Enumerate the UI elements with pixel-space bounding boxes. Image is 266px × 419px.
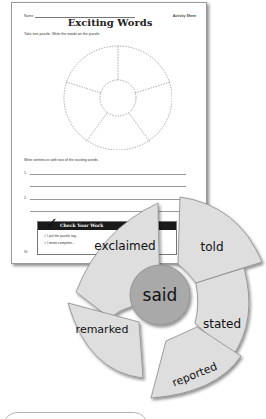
piece-label-stated: stated xyxy=(203,317,241,331)
piece-label-exclaimed: exclaimed xyxy=(94,239,155,253)
bottom-rounded-box xyxy=(3,412,148,419)
puzzle-piece-remarked[interactable] xyxy=(68,303,143,378)
center-label-said: said xyxy=(143,285,178,305)
piece-label-remarked: remarked xyxy=(76,323,129,336)
piece-label-told: told xyxy=(201,240,224,254)
word-wheel-puzzle: exclaimed told said stated reported rema… xyxy=(0,0,266,419)
